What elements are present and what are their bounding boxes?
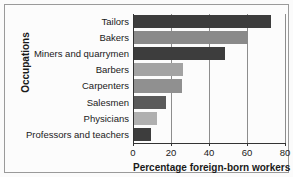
x-tick-label: 80	[280, 147, 291, 158]
x-tick-60	[247, 143, 248, 146]
x-tick-0	[133, 143, 134, 146]
x-tick-40	[209, 143, 210, 146]
x-tick-label: 40	[204, 147, 215, 158]
y-tick-label: Barbers	[96, 62, 129, 78]
chart-figure: Occupations Tailors Bakers Miners and qu…	[0, 0, 293, 177]
y-tick-label: Professors and teachers	[26, 127, 129, 143]
y-tick-label: Miners and quarrymen	[34, 46, 129, 62]
y-tick-label: Physicians	[84, 111, 129, 127]
x-tick-label: 20	[166, 147, 177, 158]
x-tick-80	[285, 143, 286, 146]
x-tick-20	[171, 143, 172, 146]
chart-frame: Occupations Tailors Bakers Miners and qu…	[4, 4, 289, 173]
x-tick-label: 0	[130, 147, 135, 158]
bar-tailors	[134, 15, 271, 28]
plot-area	[133, 14, 286, 143]
y-tick-label: Salesmen	[87, 95, 129, 111]
y-tick-label: Carpenters	[82, 78, 129, 94]
bar-miners-and-quarrymen	[134, 47, 225, 60]
bar-salesmen	[134, 96, 166, 109]
bar-physicians	[134, 112, 157, 125]
bar-professors-and-teachers	[134, 128, 151, 141]
y-axis-tick-labels: Tailors Bakers Miners and quarrymen Barb…	[19, 14, 131, 143]
bar-carpenters	[134, 79, 182, 92]
gridline-80	[285, 14, 286, 143]
bar-bakers	[134, 31, 248, 44]
y-tick-label: Tailors	[102, 14, 129, 30]
bar-barbers	[134, 63, 183, 76]
x-tick-label: 60	[242, 147, 253, 158]
x-axis-title: Percentage foreign-born workers	[133, 162, 285, 173]
y-tick-label: Bakers	[99, 30, 129, 46]
